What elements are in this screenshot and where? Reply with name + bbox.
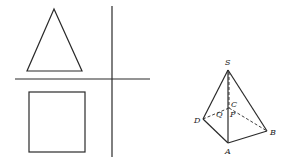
three-view-drawing — [15, 6, 150, 157]
label-B: B — [269, 128, 276, 137]
label-C: C — [231, 100, 237, 109]
edge-AB — [228, 131, 267, 143]
edge-DA — [203, 119, 228, 143]
top-view-square — [29, 92, 85, 152]
label-P: P — [229, 110, 236, 119]
label-Q: Q — [216, 110, 223, 119]
label-S: S — [225, 58, 231, 67]
front-view-triangle — [27, 9, 82, 71]
geometry-figure: S C Q P D B A — [0, 0, 285, 163]
label-A: A — [224, 147, 231, 156]
label-D: D — [193, 116, 201, 125]
